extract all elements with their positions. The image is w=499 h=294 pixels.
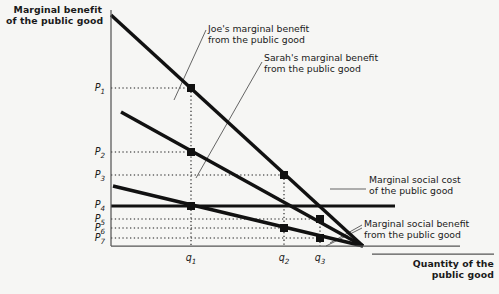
y-tick-label-P7: P7: [79, 232, 105, 247]
y-tick-label-P4: P4: [79, 199, 105, 214]
y-tick-label-P2: P2: [79, 146, 105, 161]
annotation-sarah-marginal-benefit: Sarah's marginal benefit from the public…: [264, 52, 378, 75]
marker-msb-at-q1: [187, 202, 195, 210]
marker-sarah-at-q3: [316, 215, 324, 223]
y-axis-title: Marginal benefit of the public good: [6, 4, 102, 27]
curve-sarah-marginal-benefit: [121, 112, 363, 246]
x-tick-label-q2: q2: [271, 252, 297, 267]
y-tick-label-P1: P1: [79, 82, 105, 97]
x-axis-title: Quantity of the public good: [370, 258, 494, 281]
x-tick-label-q3: q3: [307, 252, 333, 267]
marker-joe-at-q1: [187, 84, 195, 92]
markers-group: [187, 84, 324, 242]
marker-msb-at-q2: [280, 224, 288, 232]
curve-joe-marginal-benefit: [111, 15, 363, 246]
marker-sarah-at-q1: [187, 148, 195, 156]
public-good-diagram: Marginal benefit of the public good Quan…: [0, 0, 499, 294]
marker-msb-at-q3: [316, 234, 324, 242]
annotation-marginal-social-benefit: Marginal social benefit from the public …: [364, 218, 469, 241]
x-tick-label-q1: q1: [178, 252, 204, 267]
y-tick-label-P3: P3: [79, 169, 105, 184]
annotation-joe-marginal-benefit: Joe's marginal benefit from the public g…: [208, 23, 309, 46]
annotation-marginal-social-cost: Marginal social cost of the public good: [369, 174, 461, 197]
curves-group: [111, 15, 395, 246]
marker-joe-at-q2: [280, 171, 288, 179]
curve-marginal-social-benefit: [113, 186, 363, 246]
